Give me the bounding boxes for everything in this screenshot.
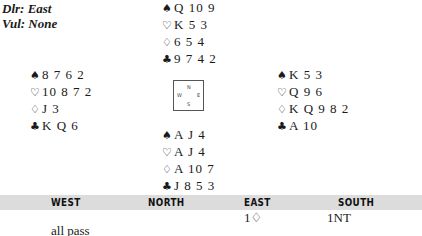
north-hearts: K 5 3 (174, 17, 208, 32)
north-spades: Q 10 9 (174, 0, 215, 15)
club-icon: ♣ (162, 179, 174, 195)
south-clubs: J 8 5 3 (174, 178, 215, 193)
south-spades: A J 4 (174, 127, 206, 142)
diamond-icon: ♢ (162, 35, 174, 51)
north-diamonds: 6 5 4 (174, 34, 205, 49)
east-diamonds: K Q 9 8 2 (289, 101, 349, 116)
south-diamonds: A 10 7 (174, 161, 215, 176)
auction-header-east: EAST (244, 195, 271, 210)
deal-info: Dlr: East Vul: None (2, 1, 57, 31)
west-clubs: K Q 6 (42, 118, 79, 133)
auction-bid-south-1: 1NT (327, 211, 351, 225)
west-hearts: 10 8 7 2 (42, 84, 92, 99)
vulnerability-label: Vul: None (2, 16, 57, 31)
compass-north: N (187, 84, 191, 90)
diamond-icon: ♢ (30, 102, 42, 118)
compass-west: W (177, 92, 182, 98)
auction-header-north: NORTH (148, 195, 185, 210)
club-icon: ♣ (162, 52, 174, 68)
heart-icon: ♡ (162, 145, 174, 161)
west-spades: 8 7 6 2 (42, 67, 85, 82)
dealer-label: Dlr: East (2, 1, 57, 16)
spade-icon: ♠ (162, 128, 174, 144)
north-clubs: 9 7 4 2 (174, 51, 217, 66)
spade-icon: ♠ (30, 68, 42, 84)
compass-east: E (197, 92, 200, 98)
compass-south: S (187, 101, 190, 107)
club-icon: ♣ (277, 119, 289, 135)
south-hearts: A J 4 (174, 144, 206, 159)
auction-bid-west-2: all pass (51, 224, 90, 236)
diamond-icon: ♢ (277, 102, 289, 118)
east-clubs: A 10 (289, 118, 318, 133)
east-hearts: Q 9 6 (289, 84, 323, 99)
north-hand: ♠Q 10 9 ♡K 5 3 ♢6 5 4 ♣9 7 4 2 (162, 0, 217, 68)
east-hand: ♠K 5 3 ♡Q 9 6 ♢K Q 9 8 2 ♣A 10 (277, 67, 349, 135)
west-hand: ♠8 7 6 2 ♡10 8 7 2 ♢J 3 ♣K Q 6 (30, 67, 92, 135)
east-spades: K 5 3 (289, 67, 323, 82)
auction-bid-east-1: 1♢ (244, 211, 262, 225)
club-icon: ♣ (30, 119, 42, 135)
diamond-icon: ♢ (162, 162, 174, 178)
west-diamonds: J 3 (42, 101, 60, 116)
compass-box: N W E S (173, 80, 204, 111)
spade-icon: ♠ (277, 68, 289, 84)
heart-icon: ♡ (277, 85, 289, 101)
heart-icon: ♡ (162, 18, 174, 34)
south-hand: ♠A J 4 ♡A J 4 ♢A 10 7 ♣J 8 5 3 (162, 127, 215, 195)
auction-header-south: SOUTH (338, 195, 374, 210)
auction-header-west: WEST (51, 195, 81, 210)
heart-icon: ♡ (30, 85, 42, 101)
spade-icon: ♠ (162, 1, 174, 17)
